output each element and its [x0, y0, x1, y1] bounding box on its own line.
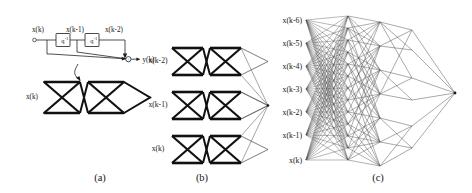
panel-c-input-label-6: x(k): [289, 156, 302, 165]
schematic-tap-label-0: x(k): [32, 26, 45, 34]
panel-c-input-label-3: x(k-3): [283, 85, 303, 94]
panel-a-lattice: x(k): [26, 81, 151, 114]
panel-a-caption: (a): [94, 172, 106, 184]
lattice-a-output-taper: [124, 82, 150, 113]
panel-c-edges-layer2: [348, 16, 380, 166]
panel-c-input-label-1: x(k-5): [283, 39, 303, 48]
lattice-a-link-top: [80, 82, 88, 98]
schematic-tap-wire-0: [47, 40, 51, 54]
panel-a-lattice-input-label: x(k): [26, 93, 39, 101]
lattice-a-link-bottom: [80, 98, 88, 114]
panel-c-input-label-0: x(k-6): [283, 16, 303, 25]
panel-c-input-label-5: x(k-1): [283, 131, 303, 140]
schematic-output-arrowhead: [136, 58, 140, 61]
lattice-b3-output-taper: [241, 136, 268, 163]
lattice-a-output-node: [149, 97, 151, 99]
panel-c-edges-layer1: [306, 16, 348, 160]
panel-c-input-label-2: x(k-4): [283, 62, 303, 71]
figure-canvas: x(k) x(k-1) x(k-2) q -1 q -1: [0, 0, 472, 193]
lattice-b2-output-taper: [241, 92, 268, 119]
lattice-b1-output-taper: [241, 48, 268, 75]
lattice-b1-link-bottom: [203, 62, 210, 76]
lattice-a-node: [123, 81, 125, 83]
panel-c-output-node: [454, 92, 457, 95]
schematic-weight-arm-1: [77, 52, 126, 59]
panel-b-caption: (b): [196, 172, 209, 184]
panel-b-input-label-2: x(k): [152, 144, 165, 153]
panel-c-caption: (c): [372, 172, 384, 184]
panel-b-fan-edge: [241, 106, 268, 164]
panel-b-fan-edge: [241, 48, 268, 106]
schematic-weight-arm-0: [51, 54, 126, 59]
panel-c: x(k-6) x(k-5) x(k-4) x(k-3) x(k-2) x(k-1…: [283, 16, 457, 166]
figure-root: x(k) x(k-1) x(k-2) q -1 q -1: [0, 0, 472, 193]
panel-c-input-label-4: x(k-2): [283, 108, 303, 117]
schematic-tap-label-2: x(k-2): [105, 26, 124, 34]
panel-c-edges-layer3: [380, 22, 412, 166]
panel-b: x(k-2) x(k-1) x(k): [149, 48, 270, 163]
panel-a-schematic: x(k) x(k-1) x(k-2) q -1 q -1: [32, 26, 155, 81]
lattice-a-node: [43, 81, 45, 83]
panel-b-fan-edge: [241, 92, 268, 106]
lattice-b2-link-bottom: [203, 106, 210, 120]
panel-b-input-label-0: x(k-2): [149, 56, 168, 65]
panel-b-input-label-1: x(k-1): [149, 100, 168, 109]
panel-c-edges-output: [412, 30, 455, 148]
panel-b-fan-edge: [241, 75, 268, 106]
lattice-a-node: [43, 112, 45, 114]
schematic-tap-label-1: x(k-1): [66, 26, 85, 34]
lattice-a-node: [123, 112, 125, 114]
panel-b-fan-edge: [241, 106, 268, 137]
schematic-input-terminal: [33, 38, 37, 42]
panel-b-fan-edge: [241, 106, 268, 120]
panel-b-output-node: [267, 104, 270, 107]
summing-node-symbol: +: [127, 57, 130, 62]
lattice-b3-link-bottom: [203, 150, 210, 164]
